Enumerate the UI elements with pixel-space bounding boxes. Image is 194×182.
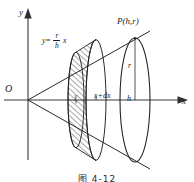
equation-fraction: r h <box>53 32 60 49</box>
point-P-label: P(h,r) <box>117 17 139 26</box>
y-axis <box>24 8 31 160</box>
generator-line-lower <box>28 100 150 169</box>
base-radius-label: r <box>128 62 131 70</box>
y-axis-label: y <box>19 8 23 17</box>
slab-height-label: y <box>74 93 78 101</box>
base-height-label: h <box>127 95 131 103</box>
equation-variable: x <box>63 37 67 45</box>
slab-right-edge-label: x+dx <box>94 92 111 100</box>
equation-numerator: r <box>54 32 59 40</box>
x-axis-label: x <box>182 97 186 106</box>
equation-lhs: y= <box>42 37 51 45</box>
origin-label: O <box>5 84 12 94</box>
equation-denominator: h <box>54 42 60 50</box>
figure-container: y x O y= r h x P(h,r) r h x+dx y 图 4-12 <box>0 0 194 182</box>
point-P-marker <box>134 37 136 39</box>
figure-caption: 图 4-12 <box>0 172 194 182</box>
line-equation-label: y= r h x <box>42 32 67 49</box>
